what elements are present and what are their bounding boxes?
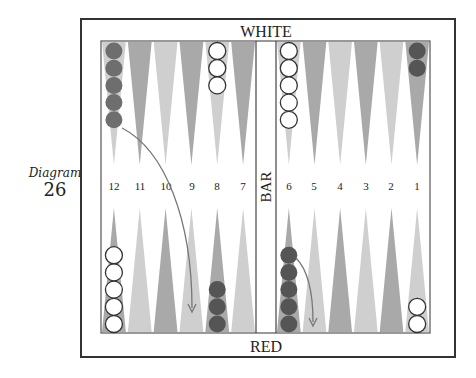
red-checker[interactable]: [409, 43, 426, 60]
red-checker[interactable]: [105, 111, 122, 128]
white-checker[interactable]: [105, 316, 122, 333]
bar-label: BAR: [258, 172, 274, 203]
white-checker[interactable]: [105, 298, 122, 315]
red-checker[interactable]: [280, 281, 297, 298]
point-number: 9: [189, 180, 195, 192]
point-number: 4: [337, 180, 343, 192]
point-number: 6: [286, 180, 292, 192]
point-number: 8: [214, 180, 220, 192]
white-checker[interactable]: [280, 60, 297, 77]
white-checker[interactable]: [105, 264, 122, 281]
red-checker[interactable]: [209, 316, 226, 333]
top-label-white: WHITE: [240, 23, 292, 40]
red-checker[interactable]: [280, 298, 297, 315]
red-checker[interactable]: [209, 281, 226, 298]
white-checker[interactable]: [409, 316, 426, 333]
bottom-label-red: RED: [250, 338, 282, 355]
white-checker[interactable]: [280, 77, 297, 94]
point-number: 2: [388, 180, 394, 192]
white-checker[interactable]: [209, 60, 226, 77]
point-number: 5: [311, 180, 317, 192]
white-checker[interactable]: [209, 77, 226, 94]
red-checker[interactable]: [280, 316, 297, 333]
point-number: 3: [363, 180, 369, 192]
white-checker[interactable]: [280, 94, 297, 111]
backgammon-board: BAR WHITE RED 12 11 10 9 8 7 6 5 4 3 2 1: [0, 0, 476, 378]
red-checker[interactable]: [280, 247, 297, 264]
point-number: 12: [109, 180, 120, 192]
red-checker[interactable]: [105, 43, 122, 60]
white-checker[interactable]: [105, 281, 122, 298]
white-checker[interactable]: [280, 111, 297, 128]
white-checker[interactable]: [209, 43, 226, 60]
red-checker[interactable]: [105, 60, 122, 77]
red-checker[interactable]: [280, 264, 297, 281]
red-checker[interactable]: [105, 77, 122, 94]
red-checker[interactable]: [105, 94, 122, 111]
white-checker[interactable]: [105, 247, 122, 264]
point-number: 7: [240, 180, 246, 192]
white-checker[interactable]: [280, 43, 297, 60]
white-checker[interactable]: [409, 298, 426, 315]
point-number: 1: [414, 180, 420, 192]
red-checker[interactable]: [209, 298, 226, 315]
point-number: 11: [135, 180, 146, 192]
red-checker[interactable]: [409, 60, 426, 77]
